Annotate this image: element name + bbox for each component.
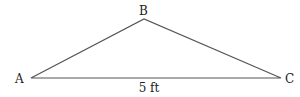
vertex-label-a: A: [14, 72, 24, 86]
triangle-diagram: A B C 5 ft: [0, 0, 300, 97]
side-length-label: 5 ft: [139, 81, 160, 95]
triangle-abc: [31, 19, 281, 78]
vertex-label-b: B: [139, 4, 148, 18]
vertex-label-c: C: [285, 72, 294, 86]
